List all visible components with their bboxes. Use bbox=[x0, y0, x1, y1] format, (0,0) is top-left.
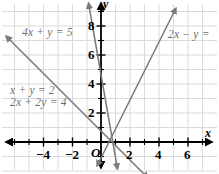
y-tick-label-2: 2 bbox=[88, 105, 95, 121]
x-axis-label: x bbox=[205, 126, 211, 141]
y-axis-label: y bbox=[103, 0, 108, 12]
equation-label-2x-plus-2y-equals-4: 2x + 2y = 4 bbox=[10, 96, 67, 108]
x-tick-label-2: 2 bbox=[126, 147, 133, 163]
coordinate-graph-figure: 4x + y = 5 2x − y = x + y = 2 2x + 2y = … bbox=[0, 0, 219, 174]
y-tick-label-8: 8 bbox=[88, 18, 95, 34]
equation-label-4x-plus-y-equals-5: 4x + y = 5 bbox=[22, 26, 73, 38]
x-tick-label-minus-2: −2 bbox=[65, 147, 79, 163]
y-tick-label-4: 4 bbox=[88, 76, 95, 92]
y-tick-label-6: 6 bbox=[88, 47, 95, 63]
origin-label: O bbox=[91, 145, 100, 161]
x-tick-label-4: 4 bbox=[155, 147, 162, 163]
x-tick-label-minus-4: −4 bbox=[36, 147, 50, 163]
x-tick-label-6: 6 bbox=[184, 147, 191, 163]
equation-label-2x-minus-y: 2x − y = bbox=[168, 28, 210, 40]
equation-label-x-plus-y-equals-2: x + y = 2 bbox=[10, 84, 55, 96]
